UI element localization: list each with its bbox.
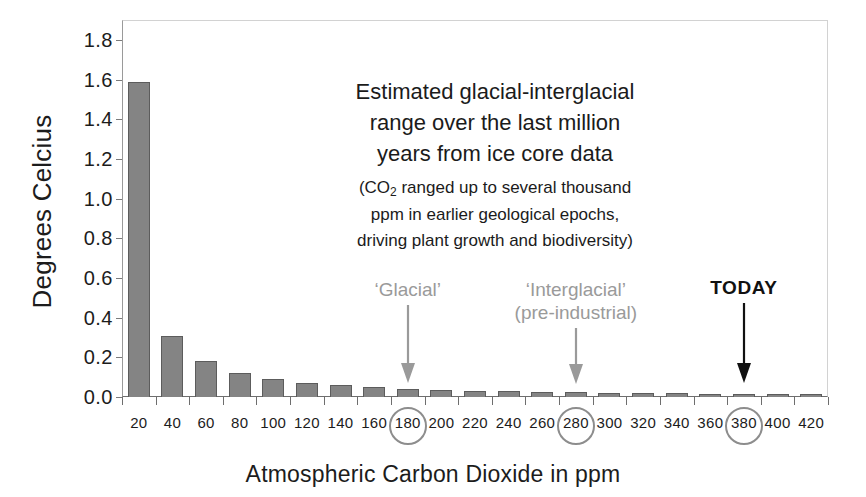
- y-tick-label: 0.0: [35, 386, 113, 409]
- x-tick-mark: [626, 397, 627, 405]
- annotation-line-3: years from ice core data: [300, 138, 690, 169]
- y-tick-label: 1.2: [35, 147, 113, 170]
- x-tick-mark: [828, 397, 829, 405]
- callout-today: TODAY: [639, 276, 849, 299]
- x-tick-mark: [761, 397, 762, 405]
- annotation-sub-line-3: driving plant growth and biodiversity): [300, 228, 690, 254]
- x-tick-mark: [189, 397, 190, 405]
- annotation-line-2: range over the last million: [300, 107, 690, 138]
- y-tick-label: 1.8: [35, 28, 113, 51]
- bar: [195, 361, 217, 397]
- x-tick-label: 420: [788, 414, 834, 431]
- annotation-sub-line-1: (CO2 ranged up to several thousand: [300, 175, 690, 202]
- x-tick-mark: [357, 397, 358, 405]
- callout-today-label: TODAY: [639, 276, 849, 299]
- x-tick-mark: [122, 397, 123, 405]
- x-tick-mark: [525, 397, 526, 405]
- bar: [229, 373, 251, 397]
- bar: [161, 336, 183, 398]
- x-tick-mark: [458, 397, 459, 405]
- y-tick-label: 0.6: [35, 266, 113, 289]
- x-tick-mark: [425, 397, 426, 405]
- bar: [128, 82, 150, 397]
- y-tick-label: 0.2: [35, 346, 113, 369]
- annotation-line-1: Estimated glacial-interglacial: [300, 76, 690, 107]
- y-tick-label: 1.6: [35, 68, 113, 91]
- x-axis-title: Atmospheric Carbon Dioxide in ppm: [0, 461, 866, 488]
- bar: [296, 383, 318, 397]
- bar: [363, 387, 385, 397]
- x-tick-mark: [156, 397, 157, 405]
- y-tick-label: 0.8: [35, 227, 113, 250]
- bar: [430, 390, 452, 397]
- callout-today-arrow-icon: [639, 303, 849, 383]
- y-tick-label: 1.0: [35, 187, 113, 210]
- x-tick-mark: [223, 397, 224, 405]
- x-tick-mark: [391, 397, 392, 405]
- y-tick-label: 1.4: [35, 108, 113, 131]
- x-tick-mark: [660, 397, 661, 405]
- x-axis-labels: 2040608010012014016018020022024026028030…: [122, 414, 828, 440]
- bar: [330, 385, 352, 397]
- x-tick-mark: [324, 397, 325, 405]
- x-tick-mark: [290, 397, 291, 405]
- bar: [262, 379, 284, 397]
- x-tick-mark: [559, 397, 560, 405]
- annotation-main-note: Estimated glacial-interglacial range ove…: [300, 76, 690, 254]
- x-tick-mark: [727, 397, 728, 405]
- bar: [397, 389, 419, 397]
- x-tick-mark: [794, 397, 795, 405]
- co2-temperature-bar-chart: Degrees Celcius 0.00.20.40.60.81.01.21.4…: [0, 0, 866, 497]
- x-tick-mark: [694, 397, 695, 405]
- x-tick-mark: [593, 397, 594, 405]
- x-tick-mark: [492, 397, 493, 405]
- x-axis-ticks: [122, 397, 828, 406]
- y-tick-label: 0.4: [35, 306, 113, 329]
- annotation-sub-line-2: ppm in earlier geological epochs,: [300, 202, 690, 228]
- x-tick-mark: [256, 397, 257, 405]
